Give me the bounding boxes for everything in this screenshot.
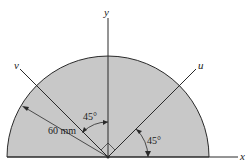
u-axis-label: u [198,59,204,71]
semicircle-diagram: y x u v 60 mm 45° 45° [0,0,252,165]
origin-point [107,156,110,159]
v-axis-label: v [14,59,19,71]
radius-label: 60 mm [48,125,76,136]
angle-label-v: 45° [83,111,97,122]
angle-label-u: 45° [147,135,161,146]
x-axis-label: x [239,150,245,162]
y-axis-label: y [103,6,109,18]
